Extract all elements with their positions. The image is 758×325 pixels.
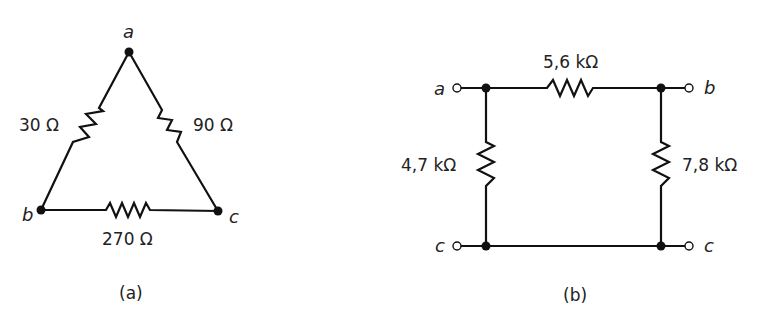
- wire-top-rail: [461, 80, 685, 96]
- node-label-a: a: [123, 23, 134, 41]
- caption-a: (a): [119, 285, 143, 302]
- junction-bottom-left: [482, 242, 491, 251]
- terminal-c-left: [453, 242, 461, 250]
- node-c: [214, 207, 223, 216]
- node-label-b: b: [22, 206, 33, 224]
- terminal-label-c-left: c: [435, 237, 445, 255]
- resistor-label-bc: 270 Ω: [102, 231, 153, 248]
- wire-b-c: [41, 203, 218, 217]
- terminal-label-a: a: [434, 80, 445, 98]
- terminal-c-right: [685, 242, 693, 250]
- wire-left-branch: [478, 88, 494, 246]
- node-label-c: c: [229, 208, 239, 226]
- resistor-label-right: 7,8 kΩ: [682, 157, 737, 174]
- node-a: [125, 48, 134, 57]
- node-b: [37, 206, 46, 215]
- terminal-label-c-right: c: [704, 237, 714, 255]
- terminal-label-b: b: [704, 79, 715, 97]
- caption-b: (b): [563, 287, 587, 304]
- terminal-b: [685, 84, 693, 92]
- resistor-label-top: 5,6 kΩ: [543, 54, 598, 71]
- resistor-label-ab: 30 Ω: [19, 117, 59, 134]
- junction-bottom-right: [657, 242, 666, 251]
- circuit-diagrams: [0, 0, 758, 325]
- resistor-label-ac: 90 Ω: [193, 117, 233, 134]
- junction-top-right: [657, 84, 666, 93]
- wire-right-branch: [653, 88, 669, 246]
- terminal-a: [453, 84, 461, 92]
- resistor-label-left: 4,7 kΩ: [401, 157, 456, 174]
- figure-b-pi-network: [453, 80, 693, 251]
- junction-top-left: [482, 84, 491, 93]
